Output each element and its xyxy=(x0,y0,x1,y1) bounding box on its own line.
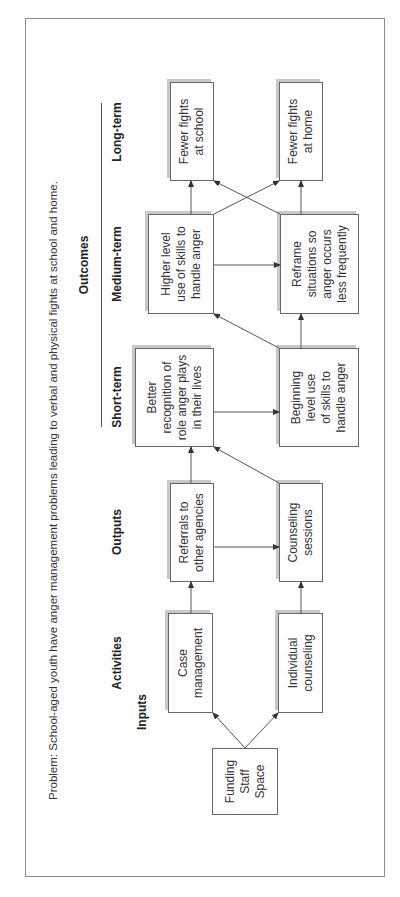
connector-arrows xyxy=(25,18,385,877)
logic-model-diagram: Problem: School-aged youth have anger ma… xyxy=(25,18,385,877)
